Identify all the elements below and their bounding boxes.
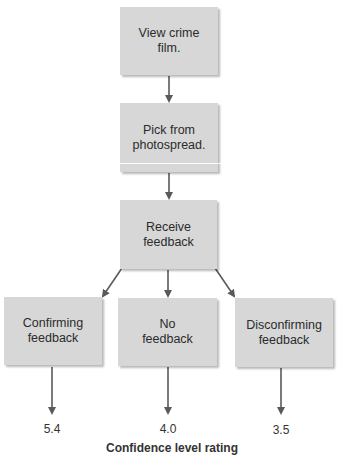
node-label-line: No [142, 317, 193, 332]
node-label-line: feedback [246, 333, 322, 348]
node-label-line: Confirming [23, 316, 83, 331]
rating-confirming: 5.4 [32, 422, 72, 436]
node-label-line: View crime [139, 26, 200, 41]
node-pick-from-photospread: Pick from photospread. [120, 103, 218, 172]
node-view-crime-film: View crime film. [120, 7, 218, 75]
node-receive-feedback: Receive feedback [120, 200, 217, 269]
node-label-line: feedback [143, 235, 194, 250]
node-label-line: film. [139, 41, 200, 56]
node-label-line: feedback [23, 331, 83, 346]
node-disconfirming-feedback: Disconfirming feedback [235, 298, 333, 367]
arrow-receive-to-disconfirming [215, 268, 234, 296]
rating-no-feedback: 4.0 [148, 422, 188, 436]
node-confirming-feedback: Confirming feedback [4, 297, 102, 365]
box-divider-line [120, 163, 224, 164]
arrow-receive-to-confirming [103, 268, 122, 296]
node-label-line: Receive [143, 220, 194, 235]
node-no-feedback: No feedback [118, 298, 217, 366]
node-label-line: photospread. [133, 138, 206, 153]
node-label-line: Disconfirming [246, 318, 322, 333]
node-label-line: feedback [142, 332, 193, 347]
node-label-line: Pick from [133, 123, 206, 138]
caption-confidence-level-rating: Confidence level rating [0, 441, 344, 455]
rating-disconfirming: 3.5 [261, 423, 301, 437]
